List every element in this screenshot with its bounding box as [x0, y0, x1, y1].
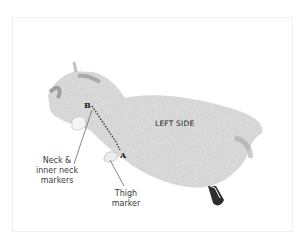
neck-callout-line1: Neck & [32, 156, 82, 166]
thigh-callout-line [110, 160, 124, 186]
point-b-label: B [84, 100, 91, 110]
neck-markers-callout: Neck & inner neck markers [32, 156, 82, 186]
neck-marker [72, 117, 86, 131]
left-side-label: LEFT SIDE [155, 119, 194, 128]
thigh-callout-line2: marker [108, 199, 144, 209]
thigh-marker-callout: Thigh marker [108, 189, 144, 209]
neck-callout-line2: inner neck [32, 166, 82, 176]
thigh-callout-line1: Thigh [108, 189, 144, 199]
thigh-marker [104, 152, 118, 162]
point-a-label: A [120, 150, 126, 160]
neck-callout-line3: markers [32, 176, 82, 186]
knitted-piece-illustration [0, 0, 306, 245]
